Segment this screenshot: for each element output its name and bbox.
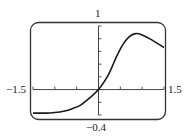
x-max-label: 1.5 (168, 84, 182, 95)
graph-window (0, 0, 189, 137)
y-min-label: −0.4 (86, 122, 106, 133)
x-min-label: −1.5 (6, 84, 26, 95)
y-max-label: 1 (95, 8, 101, 19)
axes (33, 26, 164, 115)
